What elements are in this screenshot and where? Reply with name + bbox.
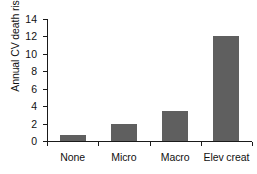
y-axis-tick: 2 <box>43 124 47 125</box>
y-axis-title: Annual CV death risk (%) <box>8 0 22 99</box>
x-axis-tick <box>150 142 151 146</box>
y-axis-tick: 6 <box>43 89 47 90</box>
x-axis-tick <box>201 142 202 146</box>
y-axis-tick-label: 10 <box>25 47 37 61</box>
x-axis-tick <box>252 142 253 146</box>
y-axis-tick: 12 <box>43 36 47 37</box>
x-axis-tick <box>98 142 99 146</box>
y-axis-tick: 14 <box>43 19 47 20</box>
y-axis-tick-label: 4 <box>31 99 37 113</box>
x-axis-category-label: None <box>47 150 98 164</box>
y-axis-tick-label: 12 <box>25 29 37 43</box>
y-axis-tick: 4 <box>43 106 47 107</box>
bar <box>60 135 86 141</box>
bar <box>213 36 239 141</box>
x-axis-category-label: Elev creat <box>201 150 252 164</box>
x-axis-category-label: Micro <box>98 150 149 164</box>
bar-chart: Annual CV death risk (%) 02468101214 Non… <box>0 0 257 174</box>
bar <box>111 124 137 141</box>
y-axis-tick-label: 6 <box>31 82 37 96</box>
y-axis-tick-label: 14 <box>25 12 37 26</box>
x-axis-category-label: Macro <box>150 150 201 164</box>
y-axis-tick-label: 8 <box>31 64 37 78</box>
y-axis-tick-label: 2 <box>31 117 37 131</box>
y-axis-line <box>47 19 48 142</box>
x-axis-tick <box>47 142 48 146</box>
bar <box>162 111 188 141</box>
y-axis-tick-label: 0 <box>31 134 37 148</box>
y-axis-tick: 8 <box>43 71 47 72</box>
y-axis-tick: 10 <box>43 54 47 55</box>
plot-area: 02468101214 NoneMicroMacroElev creat <box>47 19 252 142</box>
